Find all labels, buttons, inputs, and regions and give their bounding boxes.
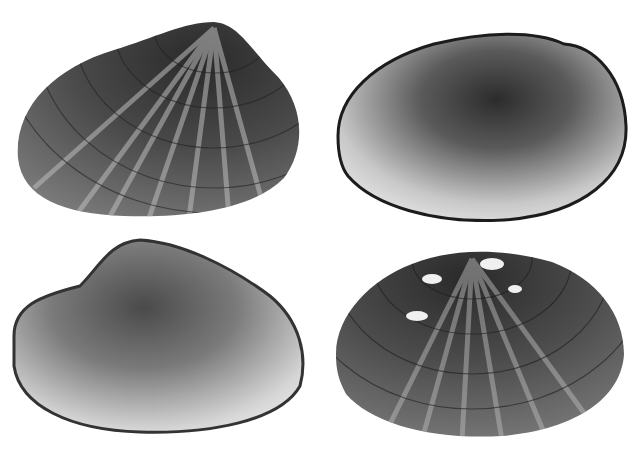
shell-top-left-exterior [14, 18, 306, 220]
shell-top-right-interior [334, 26, 628, 222]
shell-bottom-right-exterior [332, 244, 628, 440]
shell-bottom-left-interior [10, 236, 310, 436]
